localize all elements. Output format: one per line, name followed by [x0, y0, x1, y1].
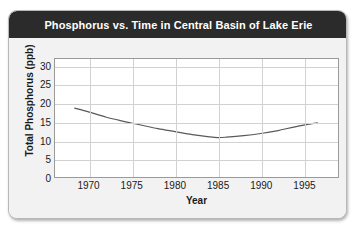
chart-card: Phosphorus vs. Time in Central Basin of …	[8, 10, 347, 219]
chart-body: Total Phosphorus (ppb) 051015202530 1970…	[9, 38, 347, 219]
y-tick-label: 20	[29, 99, 51, 109]
gridline-horizontal	[55, 104, 338, 105]
chart-title-bar: Phosphorus vs. Time in Central Basin of …	[9, 11, 347, 38]
gridline-horizontal	[55, 85, 338, 86]
y-tick-label: 15	[29, 118, 51, 128]
x-axis-title: Year	[54, 195, 339, 206]
x-tick-label: 1980	[155, 180, 195, 191]
gridline-vertical	[90, 59, 91, 177]
gridline-horizontal	[55, 142, 338, 143]
x-tick-label: 1990	[241, 180, 281, 191]
gridline-vertical	[305, 59, 306, 177]
plot-area	[54, 58, 339, 178]
gridline-vertical	[133, 59, 134, 177]
chart-title: Phosphorus vs. Time in Central Basin of …	[44, 19, 312, 31]
x-tick-label: 1995	[284, 180, 324, 191]
y-tick-label: 5	[29, 155, 51, 165]
y-tick-label: 30	[29, 62, 51, 72]
y-tick-label: 10	[29, 137, 51, 147]
y-tick-label: 0	[29, 174, 51, 184]
gridline-horizontal	[55, 123, 338, 124]
y-axis-tick-labels: 051015202530	[29, 59, 51, 177]
x-tick-label: 1985	[198, 180, 238, 191]
gridline-vertical	[262, 59, 263, 177]
gridline-vertical	[176, 59, 177, 177]
gridline-horizontal	[55, 160, 338, 161]
gridline-horizontal	[55, 67, 338, 68]
gridline-vertical	[219, 59, 220, 177]
x-tick-label: 1975	[112, 180, 152, 191]
y-tick-label: 25	[29, 80, 51, 90]
x-tick-label: 1970	[69, 180, 109, 191]
x-axis-tick-labels: 197019751980198519901995	[54, 180, 339, 194]
